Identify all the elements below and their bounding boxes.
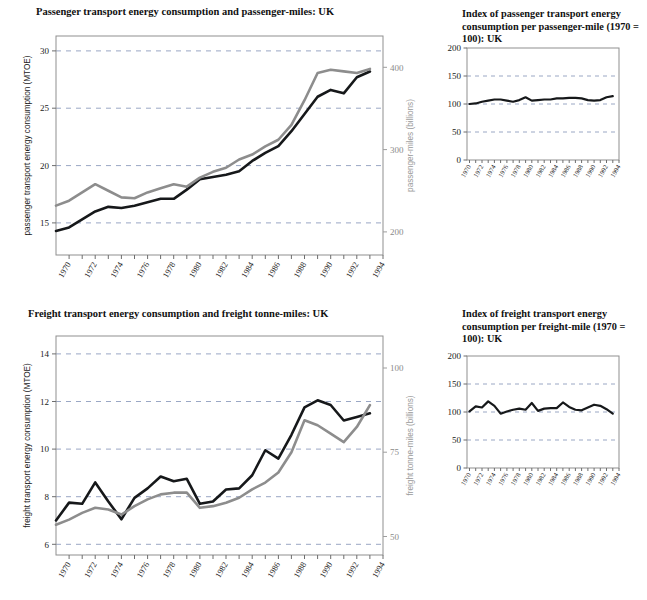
- plot-area: 0501001502001970197219741976197819801982…: [448, 351, 622, 486]
- chart-freight-transport: 6810121450751001970197219741976197819801…: [0, 300, 420, 600]
- x-tick-label: 1992: [596, 164, 609, 179]
- y-tick-label: 15: [40, 218, 50, 228]
- x-tick-label: 1992: [344, 561, 360, 580]
- data-series-grey: [56, 69, 370, 206]
- x-tick-label: 1986: [266, 561, 282, 580]
- x-tick-label: 1994: [371, 260, 388, 280]
- x-tick-label: 1986: [266, 261, 282, 280]
- x-tick-label: 1982: [534, 164, 547, 179]
- x-tick-label: 1974: [109, 560, 126, 580]
- x-tick-label: 1984: [547, 471, 560, 487]
- y-tick-label: 50: [452, 435, 462, 445]
- x-tick-label: 1978: [509, 471, 522, 487]
- x-tick-label: 1972: [472, 164, 485, 179]
- y-tick-label: 0: [457, 155, 462, 165]
- y-axis-title: passenger transport energy consumption (…: [23, 55, 32, 235]
- x-tick-label: 1984: [240, 260, 257, 280]
- x-tick-label: 1990: [584, 471, 597, 487]
- y-axis-title: freight transport energy consumption (MT…: [23, 363, 32, 528]
- x-tick-label: 1972: [472, 472, 485, 487]
- x-tick-label: 1974: [109, 260, 126, 280]
- chart-index-passenger: 0501001502001970197219741976197819801982…: [420, 0, 647, 300]
- x-tick-label: 1978: [161, 261, 177, 280]
- x-tick-label: 1982: [534, 472, 547, 487]
- y-tick-label: 0: [457, 463, 462, 473]
- x-tick-label: 1972: [83, 261, 99, 280]
- y-tick-label: 200: [448, 43, 462, 53]
- y2-axis-title: passenger-miles (billions): [406, 99, 415, 192]
- y-tick-label: 20: [40, 161, 50, 171]
- chart-passenger-transport: 1520253020030040019701972197419761978198…: [0, 0, 420, 300]
- x-tick-label: 1974: [484, 163, 497, 179]
- y-tick-label: 150: [448, 71, 462, 81]
- x-tick-label: 1976: [135, 561, 151, 580]
- x-tick-label: 1990: [318, 561, 334, 580]
- plot-area: 0501001502001970197219741976197819801982…: [448, 43, 622, 178]
- x-tick-label: 1978: [509, 163, 522, 179]
- x-tick-label: 1992: [596, 472, 609, 487]
- y-tick-label: 200: [448, 351, 462, 361]
- y-tick-label: 25: [40, 103, 50, 113]
- x-tick-label: 1984: [240, 560, 257, 580]
- y-tick-label: 150: [448, 379, 462, 389]
- x-tick-label: 1988: [292, 561, 308, 580]
- x-tick-label: 1976: [135, 261, 151, 280]
- data-series-dark: [56, 72, 370, 231]
- y2-tick-label: 75: [390, 447, 400, 457]
- y2-tick-label: 100: [390, 363, 404, 373]
- y-tick-label: 6: [45, 540, 50, 550]
- x-tick-label: 1970: [459, 163, 472, 179]
- x-tick-label: 1986: [559, 163, 572, 179]
- x-tick-label: 1978: [161, 561, 177, 580]
- y-tick-label: 10: [40, 444, 50, 454]
- y2-tick-label: 200: [390, 227, 404, 237]
- x-tick-label: 1990: [584, 163, 597, 179]
- plot-frame: [56, 336, 383, 555]
- x-tick-label: 1990: [318, 261, 334, 280]
- x-tick-label: 1992: [344, 261, 360, 280]
- x-tick-label: 1988: [292, 261, 308, 280]
- y2-tick-label: 50: [390, 532, 400, 542]
- y-tick-label: 12: [40, 397, 49, 407]
- x-tick-label: 1970: [57, 561, 73, 580]
- x-tick-label: 1986: [559, 471, 572, 487]
- y2-axis-title: freight tonne-miles (billions): [406, 395, 415, 495]
- x-tick-label: 1974: [484, 471, 497, 487]
- x-tick-label: 1972: [83, 561, 99, 580]
- plot-area: 6810121450751001970197219741976197819801…: [23, 336, 415, 580]
- plot-area: 1520253020030040019701972197419761978198…: [23, 36, 415, 280]
- x-tick-label: 1970: [459, 471, 472, 487]
- x-tick-label: 1976: [497, 471, 510, 487]
- data-series-dark: [469, 96, 612, 104]
- y-tick-label: 8: [45, 492, 50, 502]
- x-tick-label: 1980: [522, 163, 535, 179]
- x-tick-label: 1982: [214, 261, 230, 280]
- data-series-dark: [56, 400, 370, 520]
- y-tick-label: 50: [452, 127, 462, 137]
- data-series-grey: [56, 405, 370, 525]
- x-tick-label: 1984: [547, 163, 560, 179]
- y-tick-label: 100: [448, 99, 462, 109]
- x-tick-label: 1980: [187, 561, 203, 580]
- x-tick-label: 1980: [522, 471, 535, 487]
- x-tick-label: 1994: [609, 163, 622, 179]
- x-tick-label: 1994: [609, 471, 622, 487]
- x-tick-label: 1988: [571, 163, 584, 179]
- x-tick-label: 1994: [371, 560, 388, 580]
- x-tick-label: 1982: [214, 561, 230, 580]
- x-tick-label: 1988: [571, 471, 584, 487]
- chart-index-freight: 0501001502001970197219741976197819801982…: [420, 300, 647, 600]
- plot-frame: [56, 36, 383, 255]
- x-tick-label: 1980: [187, 261, 203, 280]
- y2-tick-label: 400: [390, 63, 404, 73]
- x-tick-label: 1976: [497, 163, 510, 179]
- x-tick-label: 1970: [57, 261, 73, 280]
- y-tick-label: 30: [40, 46, 50, 56]
- y2-tick-label: 300: [390, 145, 404, 155]
- y-tick-label: 14: [40, 349, 50, 359]
- y-tick-label: 100: [448, 407, 462, 417]
